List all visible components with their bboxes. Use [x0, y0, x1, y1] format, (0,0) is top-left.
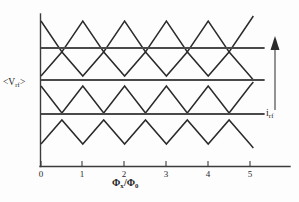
x-axis-title-sub-zero: 0 — [135, 182, 139, 189]
figure-root: 0 1 2 3 4 5 Φx/Φ0 <Vrf> irf — [0, 0, 299, 202]
x-tick-label-3: 3 — [159, 170, 173, 179]
x-tick-marks — [41, 161, 250, 166]
triangle-wave-4 — [41, 120, 253, 148]
triangle-wave-2 — [41, 52, 253, 80]
x-tick-label-5: 5 — [243, 170, 257, 179]
x-axis-title: Φx/Φ0 — [112, 178, 139, 189]
arrow-head-icon — [271, 36, 280, 50]
triangle-wave-3 — [41, 82, 253, 113]
current-label-sub: rf — [269, 112, 274, 119]
y-axis-title-close: > — [20, 77, 25, 87]
x-tick-label-1: 1 — [75, 170, 89, 179]
y-axis-title: <Vrf> — [3, 78, 25, 89]
y-axis-title-open: <V — [3, 77, 15, 87]
x-axis-title-slash-phi: /Φ — [124, 177, 135, 188]
current-arrow-label: irf — [266, 108, 274, 119]
current-arrow — [271, 36, 280, 110]
x-tick-label-4: 4 — [201, 170, 215, 179]
x-tick-label-0: 0 — [34, 170, 48, 179]
triangle-wave-1 — [41, 16, 253, 52]
